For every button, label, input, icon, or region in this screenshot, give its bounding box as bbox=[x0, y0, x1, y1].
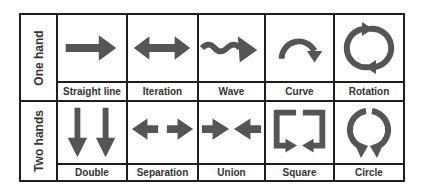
gesture-label: Double bbox=[58, 163, 126, 180]
gesture-label: Separation bbox=[128, 163, 197, 180]
rotation-arrows-icon bbox=[335, 15, 403, 81]
gesture-cell-curve: Curve bbox=[266, 15, 335, 100]
gesture-label: Iteration bbox=[128, 81, 197, 100]
gesture-cell-circle: Circle bbox=[335, 102, 403, 180]
circle-arrows-icon bbox=[335, 102, 403, 163]
gesture-label: Straight line bbox=[58, 81, 126, 100]
row-label-text: Two hands bbox=[32, 110, 46, 172]
row-label-one-hand: One hand bbox=[21, 15, 58, 100]
gesture-label: Circle bbox=[335, 163, 403, 180]
gesture-label: Union bbox=[199, 163, 264, 180]
gesture-label: Square bbox=[266, 163, 333, 180]
row-label-two-hands: Two hands bbox=[21, 102, 58, 180]
wave-arrow-icon bbox=[199, 15, 264, 81]
row-one-hand: One hand Straight line Iteration Wave bbox=[21, 15, 403, 102]
gesture-cell-union: Union bbox=[199, 102, 266, 180]
gesture-label: Curve bbox=[266, 81, 333, 100]
right-arrow-icon bbox=[58, 15, 126, 81]
curved-arrow-icon bbox=[266, 15, 333, 81]
gesture-cell-wave: Wave bbox=[199, 15, 266, 100]
gesture-cell-double: Double bbox=[58, 102, 128, 180]
gesture-table: One hand Straight line Iteration Wave bbox=[19, 13, 405, 182]
gesture-label: Wave bbox=[199, 81, 264, 100]
diverging-arrows-icon bbox=[128, 102, 197, 163]
two-down-arrows-icon bbox=[58, 102, 126, 163]
converging-arrows-icon bbox=[199, 102, 264, 163]
gesture-cell-straight-line: Straight line bbox=[58, 15, 128, 100]
gesture-label: Rotation bbox=[335, 81, 403, 100]
gesture-cell-rotation: Rotation bbox=[335, 15, 403, 100]
double-headed-arrow-icon bbox=[128, 15, 197, 81]
gesture-cell-iteration: Iteration bbox=[128, 15, 199, 100]
row-label-text: One hand bbox=[32, 30, 46, 85]
gesture-cell-separation: Separation bbox=[128, 102, 199, 180]
gesture-cell-square: Square bbox=[266, 102, 335, 180]
square-arrows-icon bbox=[266, 102, 333, 163]
row-two-hands: Two hands Double Separation bbox=[21, 102, 403, 180]
